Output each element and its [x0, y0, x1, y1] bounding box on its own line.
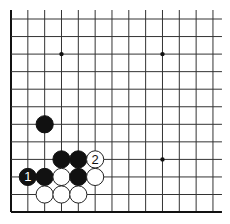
white-stone: 2	[87, 151, 104, 168]
white-stone	[53, 186, 70, 203]
move-number-label: 1	[24, 169, 31, 184]
go-board[interactable]: 21	[0, 0, 230, 224]
black-stone	[70, 151, 87, 168]
white-stone	[36, 186, 53, 203]
star-point-icon	[59, 52, 63, 56]
star-point-icon	[160, 157, 164, 161]
white-stone	[87, 168, 104, 185]
black-stone	[36, 168, 53, 185]
black-stone: 1	[19, 168, 36, 185]
black-stone	[36, 116, 53, 133]
move-number-label: 2	[92, 152, 99, 167]
white-stone	[53, 168, 70, 185]
white-stone	[70, 186, 87, 203]
black-stone	[53, 151, 70, 168]
black-stone	[70, 168, 87, 185]
star-point-icon	[160, 52, 164, 56]
